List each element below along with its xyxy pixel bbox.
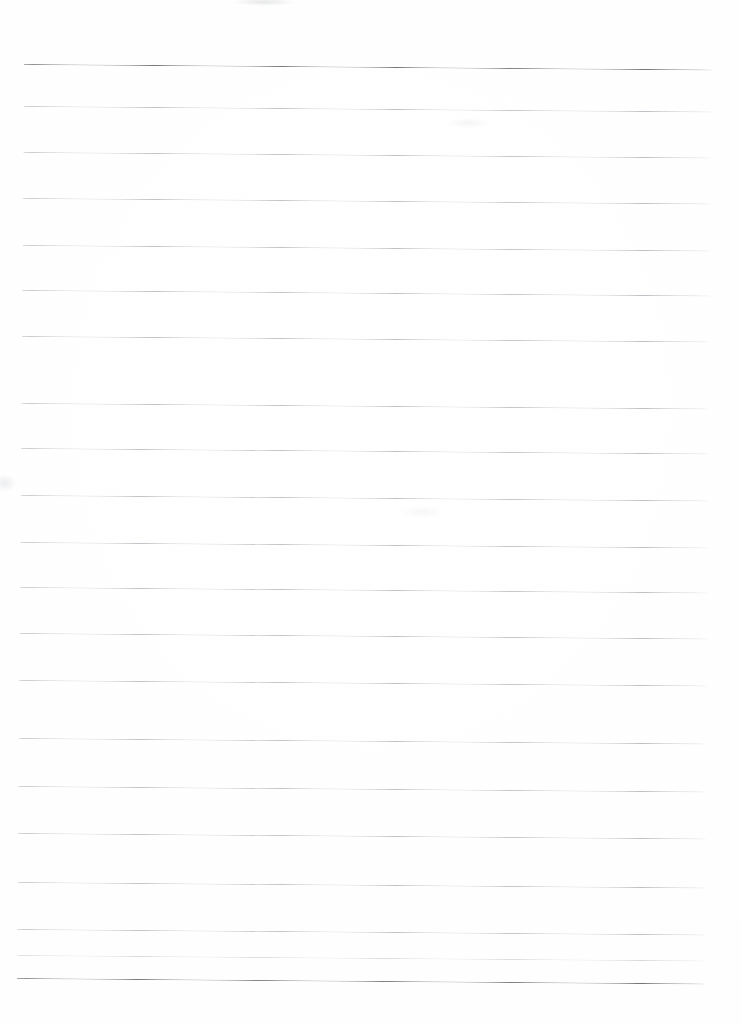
paper-surface (0, 0, 740, 1023)
ruled-line-block (0, 0, 740, 1023)
ruled-line (23, 152, 711, 159)
ruled-line (19, 738, 707, 745)
ruled-line (17, 978, 705, 985)
ruled-line (23, 245, 711, 252)
ruled-line (17, 955, 705, 962)
scan-smudge-top (232, 0, 296, 6)
ruled-line (21, 495, 709, 502)
ruled-line (22, 290, 710, 297)
ruled-line (23, 198, 711, 205)
ruled-line (24, 106, 712, 113)
scan-smudge-left (0, 474, 16, 492)
scanned-page: Scanned image of a blank sheet of ruled … (0, 0, 740, 1023)
scan-smudge-lower (400, 506, 446, 518)
ruled-line (21, 448, 709, 455)
ruled-line (24, 64, 712, 71)
scan-smudge-middle (448, 118, 488, 128)
ruled-line (18, 833, 706, 840)
ruled-line (22, 336, 710, 343)
ruled-line (19, 680, 707, 687)
ruled-line (17, 929, 705, 936)
ruled-line (20, 587, 708, 594)
ruled-line (19, 633, 707, 640)
ruled-line (18, 786, 706, 793)
ruled-line (21, 403, 709, 410)
ruled-line (20, 542, 708, 549)
ruled-line (17, 882, 705, 889)
